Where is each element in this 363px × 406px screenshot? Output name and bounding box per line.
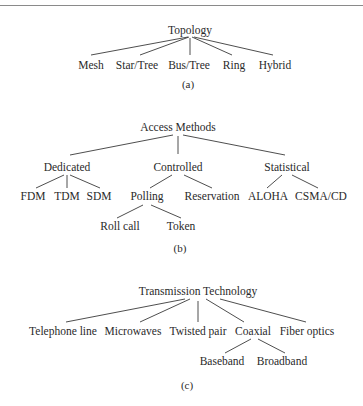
topology-mesh: Mesh — [78, 59, 104, 71]
transmission-root: Transmission Technology — [139, 285, 257, 297]
caption-a: (a) — [182, 78, 194, 90]
topology-bus-tree: Bus/Tree — [168, 59, 210, 71]
transmission-broadband: Broadband — [257, 355, 307, 367]
access-fdm: FDM — [21, 190, 46, 202]
access-dedicated: Dedicated — [44, 161, 91, 173]
topology-hybrid: Hybrid — [259, 59, 292, 71]
topology-edges — [91, 37, 273, 55]
access-methods-edges — [36, 135, 318, 218]
access-aloha: ALOHA — [248, 190, 288, 202]
topology-star-tree: Star/Tree — [116, 59, 158, 71]
topology-ring: Ring — [223, 59, 245, 71]
transmission-coaxial: Coaxial — [235, 325, 271, 337]
access-controlled: Controlled — [153, 161, 202, 173]
access-statistical: Statistical — [264, 161, 309, 173]
transmission-twisted-pair: Twisted pair — [169, 325, 226, 337]
access-sdm: SDM — [87, 190, 112, 202]
access-token: Token — [167, 220, 196, 232]
transmission-microwaves: Microwaves — [105, 325, 162, 337]
access-tdm: TDM — [54, 190, 80, 202]
transmission-telephone-line: Telephone line — [29, 325, 97, 337]
access-reservation: Reservation — [185, 190, 240, 202]
caption-b: (b) — [174, 242, 187, 254]
transmission-baseband: Baseband — [200, 355, 245, 367]
topology-root: Topology — [168, 24, 212, 36]
access-methods-root: Access Methods — [140, 121, 216, 133]
access-roll-call: Roll call — [100, 220, 139, 232]
transmission-fiber-optics: Fiber optics — [280, 325, 335, 337]
access-polling: Polling — [130, 190, 163, 202]
access-csma-cd: CSMA/CD — [295, 190, 347, 202]
caption-c: (c) — [181, 379, 193, 391]
